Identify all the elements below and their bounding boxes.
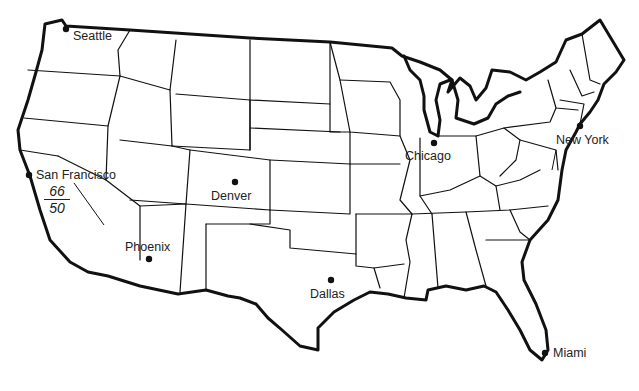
city-label-san-francisco: San Francisco	[36, 169, 116, 182]
city-label-seattle: Seattle	[73, 30, 112, 43]
city-label-chicago: Chicago	[405, 150, 451, 163]
fraction-denominator: 50	[44, 201, 70, 215]
temperature-fraction: 66 50	[44, 184, 70, 215]
city-label-phoenix: Phoenix	[125, 241, 170, 254]
city-label-denver: Denver	[211, 190, 251, 203]
us-outline	[0, 0, 639, 391]
us-map: Seattle San Francisco 66 50 Denver Phoen…	[0, 0, 639, 391]
city-label-dallas: Dallas	[310, 288, 345, 301]
fraction-numerator: 66	[44, 184, 70, 198]
city-label-new-york: New York	[556, 134, 609, 147]
city-label-miami: Miami	[553, 347, 586, 360]
